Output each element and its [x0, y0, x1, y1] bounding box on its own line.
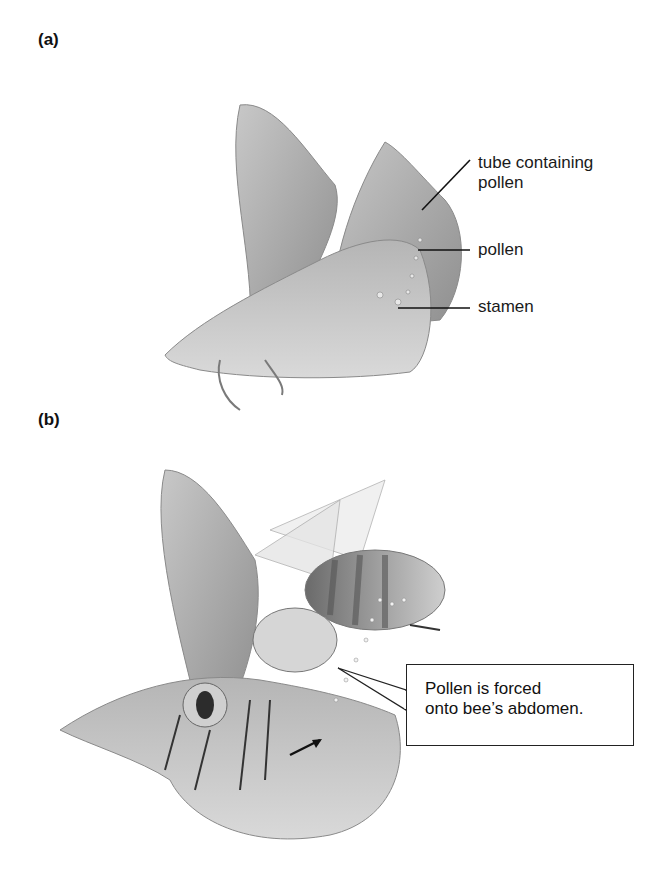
label-tube-containing-pollen: tube containing pollen: [478, 153, 593, 193]
callout-box: Pollen is forced onto bee’s abdomen.: [406, 664, 634, 746]
label-line: pollen: [478, 173, 593, 193]
callout-line: onto bee’s abdomen.: [425, 699, 633, 719]
callout-line: Pollen is forced: [425, 679, 633, 699]
flower-a: [165, 105, 461, 410]
label-pollen: pollen: [478, 240, 523, 260]
illustration: [0, 0, 666, 881]
label-line: tube containing: [478, 153, 593, 173]
label-stamen: stamen: [478, 297, 534, 317]
